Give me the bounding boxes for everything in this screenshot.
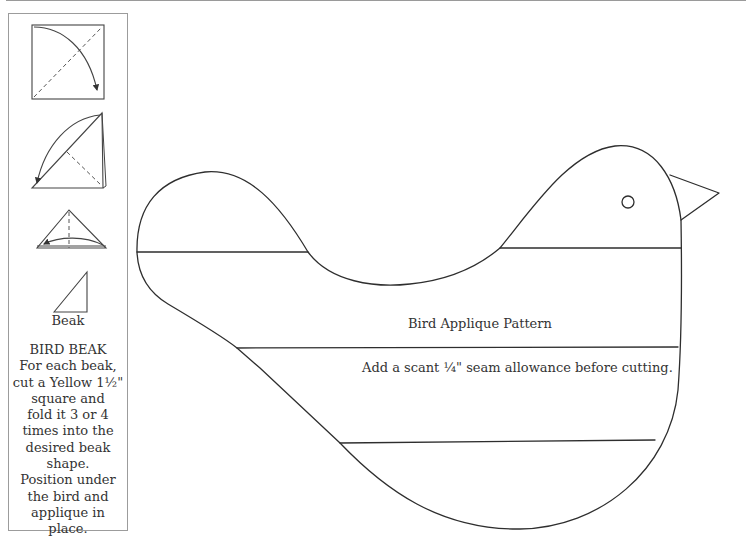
seam-line-4 (340, 440, 655, 443)
seam-allowance-note: Add a scant ¼" seam allowance before cut… (362, 360, 673, 375)
bird-beak (670, 175, 719, 220)
bird-outline (137, 146, 681, 529)
bird-eye-icon (622, 196, 634, 208)
pattern-title: Bird Applique Pattern (408, 316, 552, 331)
seam-line-3 (237, 347, 678, 348)
